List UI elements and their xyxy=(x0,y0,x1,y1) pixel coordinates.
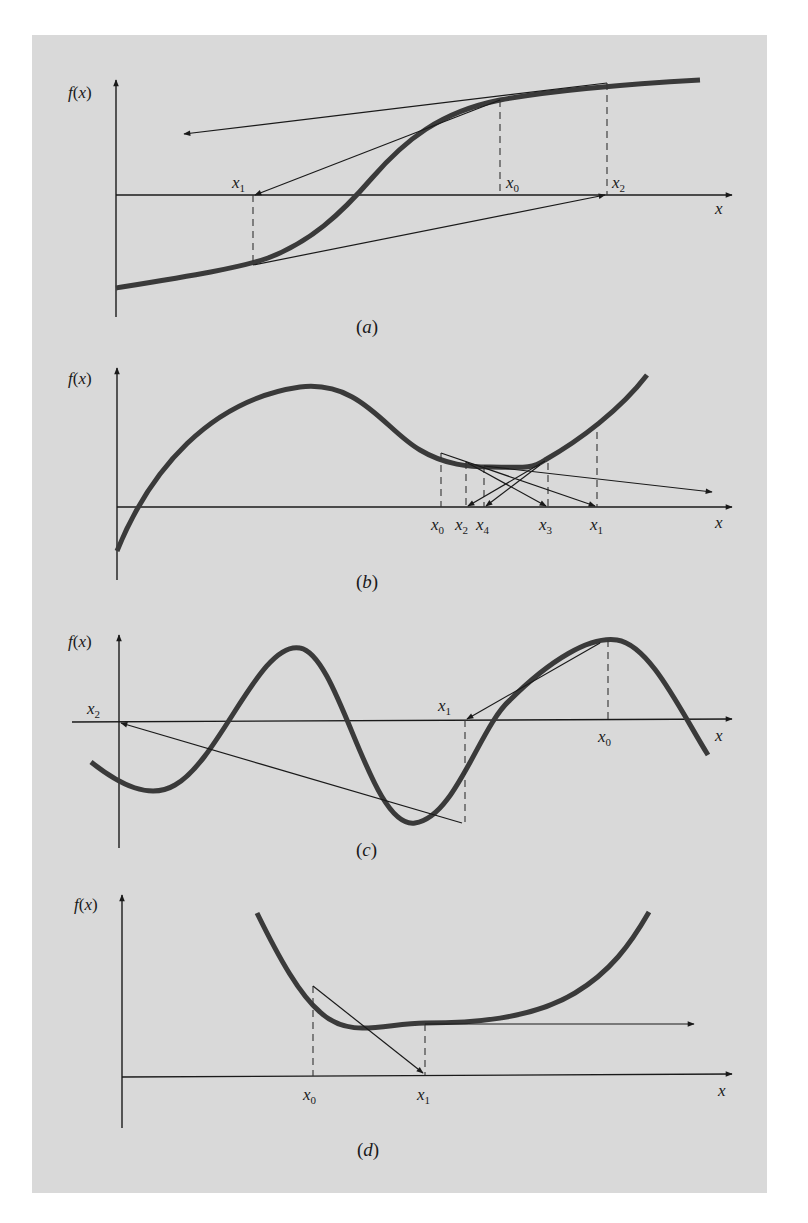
x-axis-label: x xyxy=(714,513,723,532)
label-x0: x0 xyxy=(430,515,445,536)
function-curve xyxy=(117,375,647,551)
x-axis-label: x xyxy=(714,199,723,218)
tangent-arrow-x1-to-x2 xyxy=(121,723,462,823)
x-axis xyxy=(122,1074,732,1077)
y-axis-label: f(x) xyxy=(68,369,92,388)
panel-d: f(x) x x0 x1 (d) xyxy=(74,895,732,1161)
panel-b: f(x) x x0 x2 x4 x3 x1 (b) xyxy=(68,368,732,593)
label-x1: x1 xyxy=(589,515,603,536)
tangent-arrow-x0-to-x1 xyxy=(441,453,595,506)
label-x0: x0 xyxy=(505,173,520,194)
label-x1: x1 xyxy=(231,173,245,194)
panel-a: f(x) x x1 x0 x2 (a) xyxy=(68,80,732,338)
x-axis xyxy=(72,719,732,722)
tangent-arrow-x2-diverge xyxy=(184,83,607,134)
label-x0: x0 xyxy=(597,727,612,748)
tangent-arrow-x0-to-x1 xyxy=(467,643,600,719)
label-x1: x1 xyxy=(416,1085,430,1106)
tangent-arrow-x0-to-x1 xyxy=(255,100,500,195)
caption-b: (b) xyxy=(356,571,378,593)
newton-raphson-pitfalls-figure: f(x) x x1 x0 x2 (a) f(x) x xyxy=(0,0,808,1223)
label-x4: x4 xyxy=(475,515,490,536)
label-x0: x0 xyxy=(302,1085,317,1106)
function-curve xyxy=(91,640,708,824)
label-x1: x1 xyxy=(437,696,451,717)
label-x2: x2 xyxy=(611,173,625,194)
panel-c: f(x) x x2 x1 x0 (c) xyxy=(68,632,732,861)
y-axis-label: f(x) xyxy=(74,895,98,914)
caption-d: (d) xyxy=(357,1139,379,1161)
caption-c: (c) xyxy=(356,839,377,861)
label-x2: x2 xyxy=(86,699,100,720)
tangent-arrow-x0-to-x1 xyxy=(313,986,423,1073)
y-axis-label: f(x) xyxy=(68,83,92,102)
caption-a: (a) xyxy=(356,316,378,338)
x-axis-label: x xyxy=(714,726,723,745)
function-curve xyxy=(257,912,649,1028)
label-x2: x2 xyxy=(454,515,468,536)
x-axis-label: x xyxy=(717,1081,726,1100)
label-x3: x3 xyxy=(538,515,553,536)
y-axis-label: f(x) xyxy=(68,632,92,651)
tangent-arrow-x1-to-x2 xyxy=(253,195,605,265)
